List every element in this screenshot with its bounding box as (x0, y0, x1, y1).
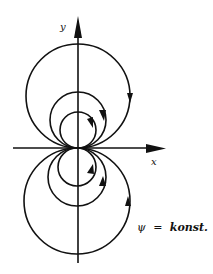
lower-circle-medium (48, 148, 106, 206)
dipole-streamline-figure: y x ψ = konst. (0, 0, 213, 274)
flow-arrow-icon (87, 164, 94, 174)
psi-symbol: ψ (137, 221, 146, 234)
konst-text: konst. (170, 221, 208, 234)
flow-arrow-icon (87, 117, 93, 128)
equals-sign: = (153, 221, 162, 234)
flow-arrow-icon (99, 110, 106, 121)
x-axis-label: x (151, 157, 157, 167)
y-axis-label: y (60, 22, 66, 32)
lower-circle-large (24, 148, 130, 254)
y-axis-arrow-icon (74, 16, 82, 38)
lower-circle-small (58, 148, 96, 186)
streamfunction-label: ψ = konst. (137, 222, 208, 233)
x-axis-arrow-icon (146, 144, 166, 153)
flow-arrow-icon (127, 93, 133, 103)
